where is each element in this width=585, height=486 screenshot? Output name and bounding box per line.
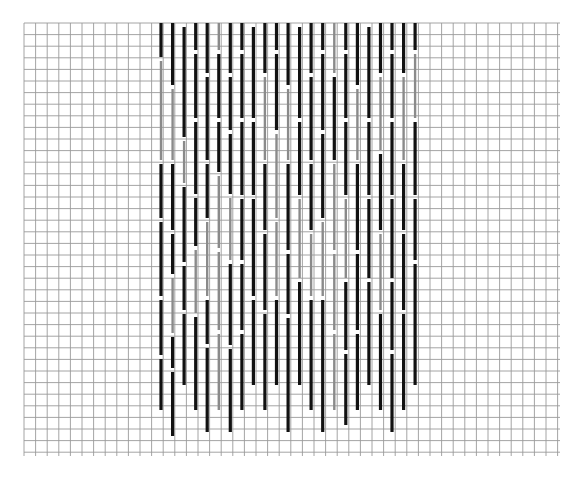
stitch-chart (0, 0, 585, 486)
grid-paper (24, 23, 560, 456)
stitch-pattern (161, 23, 415, 436)
